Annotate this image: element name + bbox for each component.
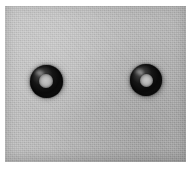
photo-scene: [0, 0, 193, 169]
o-ring-left-hole: [39, 74, 53, 88]
o-ring-right-hole: [140, 74, 153, 87]
